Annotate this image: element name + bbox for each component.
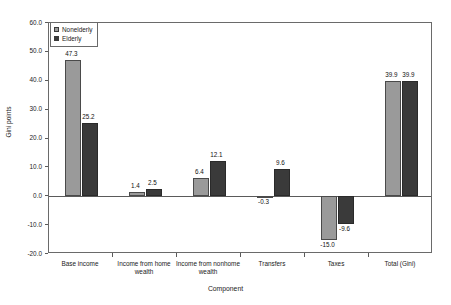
- x-tick-mark: [304, 253, 305, 257]
- y-tick-label: 60.0: [0, 19, 42, 26]
- y-axis-title: Gini points: [5, 90, 13, 154]
- bar-nonelderly: [129, 192, 145, 196]
- bar-value-label: 12.1: [202, 151, 232, 158]
- bar-value-label: -0.3: [249, 198, 279, 205]
- bar-value-label: -15.0: [313, 241, 343, 248]
- y-tick-label: -10.0: [0, 221, 42, 228]
- y-tick-label: 10.0: [0, 163, 42, 170]
- x-tick-label: Transfers: [240, 260, 304, 268]
- y-tick-label: 50.0: [0, 47, 42, 54]
- legend-label-nonelderly: Nonelderly: [62, 26, 93, 34]
- bar-nonelderly: [321, 196, 337, 239]
- legend-swatch-nonelderly-icon: [54, 27, 59, 32]
- chart-legend: Nonelderly Elderly: [50, 22, 98, 47]
- bar-value-label: 2.5: [138, 179, 168, 186]
- x-tick-mark: [176, 253, 177, 257]
- x-tick-label: Income from nonhome wealth: [176, 260, 240, 276]
- y-tick-label: 40.0: [0, 76, 42, 83]
- x-tick-label: Total (Gini): [368, 260, 432, 268]
- bar-elderly: [82, 123, 98, 196]
- gini-decomposition-bar-chart: 60.050.040.030.020.010.00.0-10.0-20.0 Gi…: [0, 0, 451, 305]
- bar-elderly: [146, 189, 162, 196]
- bar-nonelderly: [65, 60, 81, 197]
- x-tick-label: Taxes: [304, 260, 368, 268]
- bar-value-label: 25.2: [74, 113, 104, 120]
- bar-nonelderly: [193, 178, 209, 196]
- bar-elderly: [338, 196, 354, 224]
- y-tick-mark: [45, 253, 48, 254]
- bar-elderly: [210, 161, 226, 196]
- bar-elderly: [274, 169, 290, 197]
- x-tick-mark: [368, 253, 369, 257]
- x-tick-label: Base income: [48, 260, 112, 268]
- bar-value-label: -9.6: [330, 225, 360, 232]
- bar-value-label: 39.9: [394, 71, 424, 78]
- bar-value-label: 6.4: [185, 168, 215, 175]
- zero-baseline: [49, 196, 431, 197]
- legend-item-elderly: Elderly: [54, 34, 93, 43]
- legend-label-elderly: Elderly: [62, 35, 82, 43]
- y-tick-label: -20.0: [0, 250, 42, 257]
- x-tick-label: Income from home wealth: [112, 260, 176, 276]
- bar-nonelderly: [385, 81, 401, 196]
- bar-value-label: 9.6: [266, 159, 296, 166]
- bar-elderly: [402, 81, 418, 196]
- x-tick-mark: [112, 253, 113, 257]
- plot-area: [48, 22, 432, 253]
- y-tick-label: 0.0: [0, 192, 42, 199]
- x-tick-mark: [240, 253, 241, 257]
- x-axis-title: Component: [0, 285, 451, 292]
- bar-value-label: 47.3: [57, 50, 87, 57]
- legend-item-nonelderly: Nonelderly: [54, 25, 93, 34]
- legend-swatch-elderly-icon: [54, 36, 59, 41]
